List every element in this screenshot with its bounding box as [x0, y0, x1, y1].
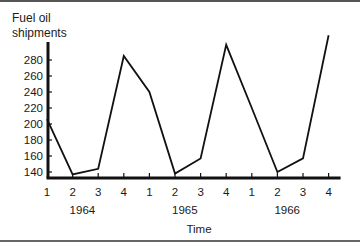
x-tick-label: 1 [249, 186, 255, 198]
x-axis-title: Time [186, 223, 211, 235]
year-label: 1964 [70, 204, 96, 216]
line-chart: 1401601802002202402602801234123412341964… [0, 0, 360, 247]
y-tick-label: 240 [24, 86, 43, 98]
x-tick-label: 4 [325, 186, 332, 198]
y-tick-label: 180 [24, 134, 43, 146]
year-label: 1966 [274, 204, 300, 216]
x-tick-label: 3 [95, 186, 101, 198]
x-tick-label: 2 [274, 186, 280, 198]
x-tick-label: 3 [300, 186, 306, 198]
data-line [47, 35, 329, 174]
x-tick-label: 4 [223, 186, 230, 198]
x-tick-label: 1 [44, 186, 50, 198]
bottom-rule [0, 240, 360, 242]
x-tick-label: 3 [197, 186, 203, 198]
y-tick-label: 220 [24, 102, 43, 114]
y-tick-label: 200 [24, 118, 43, 130]
x-tick-label: 2 [172, 186, 178, 198]
x-tick-label: 4 [121, 186, 128, 198]
y-tick-label: 160 [24, 150, 43, 162]
y-tick-label: 260 [24, 70, 43, 82]
y-tick-label: 140 [24, 166, 43, 178]
year-label: 1965 [172, 204, 198, 216]
x-tick-label: 1 [146, 186, 152, 198]
x-tick-label: 2 [69, 186, 75, 198]
y-tick-label: 280 [24, 54, 43, 66]
